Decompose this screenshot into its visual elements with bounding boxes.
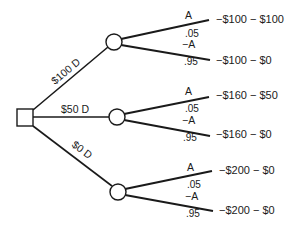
chance-node-top: [106, 34, 122, 50]
event-label: −A: [182, 38, 195, 50]
probability-label: .05: [187, 179, 201, 190]
event-branch-mid-not-a: [124, 120, 210, 136]
outcome-label: −$200 − $0: [219, 204, 275, 216]
outcome-label: −$100 − $100: [216, 13, 284, 25]
probability-label: .95: [183, 132, 197, 143]
decision-tree-diagram: $100 D $50 D $0 D A .05 −A .95 −$100 − $…: [0, 0, 288, 234]
outcome-label: −$160 − $0: [216, 128, 272, 140]
event-label: A: [187, 161, 194, 173]
probability-label: .95: [186, 208, 200, 219]
probability-label: .05: [185, 103, 199, 114]
decision-branch-100: [33, 47, 108, 110]
outcome-label: −$160 − $50: [216, 89, 278, 101]
decision-label-50: $50 D: [61, 103, 89, 115]
event-label: −A: [182, 114, 195, 126]
decision-node-square: [17, 109, 33, 126]
chance-node-bottom: [110, 184, 126, 200]
chance-node-middle: [109, 109, 125, 125]
outcome-label: −$200 − $0: [219, 164, 275, 176]
outcome-label: −$100 − $0: [216, 54, 272, 66]
event-label: A: [185, 85, 192, 97]
event-label: A: [185, 9, 192, 21]
probability-label: .95: [184, 56, 198, 67]
event-label: −A: [185, 190, 198, 202]
decision-branch-0: [33, 126, 112, 186]
